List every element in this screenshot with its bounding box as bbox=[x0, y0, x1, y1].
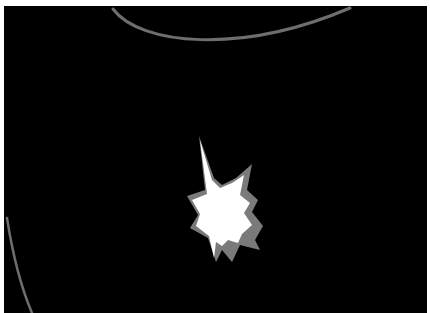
dark-canvas bbox=[4, 6, 427, 313]
left-curve-shape bbox=[7, 218, 32, 313]
top-arc-shape bbox=[113, 8, 350, 40]
image-frame bbox=[0, 0, 430, 313]
illustration bbox=[4, 6, 427, 313]
